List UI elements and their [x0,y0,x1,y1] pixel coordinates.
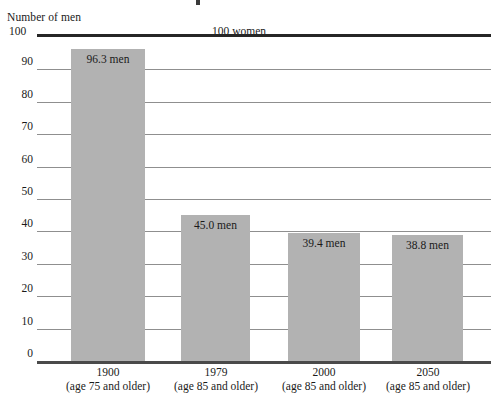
x-label-age-range: (age 75 and older) [48,380,168,394]
y-tick-label-40: 40 [3,218,33,230]
x-label-age-range: (age 85 and older) [264,380,384,394]
y-tick-label-30: 30 [3,251,33,263]
x-label-year: 1979 [156,366,276,380]
bar-2050 [392,235,463,361]
y-tick-label-10: 10 [3,316,33,328]
y-tick-label-20: 20 [3,283,33,295]
y-tick-label-70: 70 [3,121,33,133]
y-tick-label-50: 50 [3,186,33,198]
bar-2000 [288,233,360,361]
x-label-age-range: (age 85 and older) [156,380,276,394]
x-label-1979: 1979(age 85 and older) [156,366,276,393]
gridline-0 [37,361,491,364]
bar-value-label-1900: 96.3 men [71,54,145,66]
bar-1900 [71,49,145,361]
gridline-100 [37,34,491,37]
bar-value-label-2000: 39.4 men [288,238,360,250]
x-label-year: 1900 [48,366,168,380]
x-label-age-range: (age 85 and older) [368,380,488,394]
bar-value-label-1979: 45.0 men [181,220,250,232]
y-tick-label-90: 90 [3,56,33,68]
x-label-2050: 2050(age 85 and older) [368,366,488,393]
x-label-2000: 2000(age 85 and older) [264,366,384,393]
bar-value-label-2050: 38.8 men [392,240,463,252]
y-axis-title: Number of men [7,11,81,23]
y-tick-label-80: 80 [3,89,33,101]
plot-area: 96.3 men45.0 men39.4 men38.8 men [37,37,491,361]
x-label-1900: 1900(age 75 and older) [48,366,168,393]
x-label-year: 2050 [368,366,488,380]
y-axis-tick-labels: 9080706050403020100 [0,37,33,361]
bar-1979 [181,215,250,361]
y-axis-top-value: 100 [9,25,26,37]
cropped-title-artifact [196,0,200,5]
y-tick-label-60: 60 [3,154,33,166]
x-label-year: 2000 [264,366,384,380]
y-tick-label-0: 0 [3,348,33,360]
bar-chart: Number of men 100 100 women 908070605040… [0,0,501,398]
